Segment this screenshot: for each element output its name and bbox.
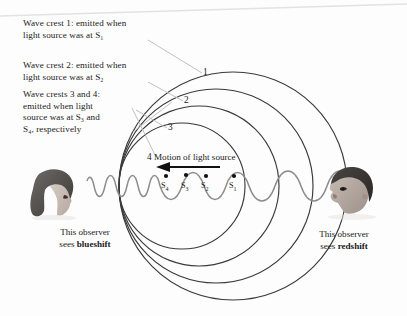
crest-number-2: 2 (184, 95, 189, 105)
annotation-crest-3-4: Wave crests 3 and 4: emitted when light … (23, 89, 151, 135)
observer-left-caption: This observer sees blueshift (30, 227, 140, 250)
observer-left-line2-prefix: sees (59, 239, 76, 249)
observer-left-line1: This observer (60, 227, 110, 237)
annotation-crest-1: Wave crest 1: emitted when light source … (23, 18, 173, 41)
observer-right-line1: This observer (319, 229, 369, 239)
source-label-s1: S1 (229, 181, 237, 192)
observer-right-caption: This observer sees redshift (292, 229, 396, 252)
crest-number-4: 4 (147, 152, 152, 162)
source-label-s2: S2 (201, 181, 209, 192)
doppler-figure: Wave crest 1: emitted when light source … (0, 0, 407, 316)
observer-right-line2-prefix: sees (320, 241, 337, 251)
source-label-s4: S4 (161, 181, 169, 192)
motion-of-light-source-label: Motion of light source (154, 152, 236, 163)
observer-left-shift-term: blueshift (77, 239, 111, 249)
motion-arrow (156, 162, 220, 172)
crest-number-1: 1 (203, 67, 208, 77)
observer-right-shift-term: redshift (338, 241, 368, 251)
observer-right-avatar (316, 161, 386, 221)
source-label-s3: S3 (181, 181, 189, 192)
observer-left-avatar (24, 168, 90, 220)
annotation-crest-2: Wave crest 2: emitted when light source … (23, 60, 173, 83)
crest-number-3: 3 (168, 122, 173, 132)
